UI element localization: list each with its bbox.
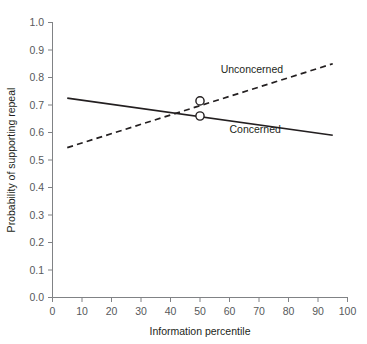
y-tick-label: 0.2	[29, 236, 44, 248]
x-tick-label: 10	[76, 305, 88, 317]
chart-figure: Probability of supporting repeal 1.0 0.9…	[0, 0, 367, 344]
y-tick-label: 0.8	[29, 71, 44, 83]
x-tick-label: 40	[165, 305, 177, 317]
x-tick-label: 100	[339, 305, 357, 317]
y-tick-label: 0.0	[29, 291, 44, 303]
series-label-concerned: Concerned	[230, 123, 282, 135]
y-tick-label: 0.7	[29, 99, 44, 111]
y-tick-label: 0.5	[29, 154, 44, 166]
x-tick-label: 80	[283, 305, 295, 317]
x-tick-label: 70	[253, 305, 265, 317]
x-tick-label: 90	[312, 305, 324, 317]
y-tick-label: 0.6	[29, 126, 44, 138]
marker-concerned	[196, 112, 204, 120]
x-tick-label: 50	[194, 305, 206, 317]
x-tick-label: 60	[224, 305, 236, 317]
y-tick-label: 0.3	[29, 209, 44, 221]
x-tick-label: 20	[106, 305, 118, 317]
x-tick-label: 30	[135, 305, 147, 317]
series-label-unconcerned: Unconcerned	[221, 63, 284, 75]
line-chart: Probability of supporting repeal 1.0 0.9…	[0, 0, 367, 344]
x-axis-title: Information percentile	[150, 325, 251, 337]
y-tick-label: 1.0	[29, 16, 44, 28]
marker-unconcerned	[196, 97, 204, 105]
y-axis-title: Probability of supporting repeal	[5, 88, 17, 233]
series-line-unconcerned	[67, 64, 333, 148]
x-tick-label: 0	[50, 305, 56, 317]
y-tick-label: 0.1	[29, 264, 44, 276]
y-tick-label: 0.4	[29, 181, 44, 193]
y-tick-label: 0.9	[29, 44, 44, 56]
